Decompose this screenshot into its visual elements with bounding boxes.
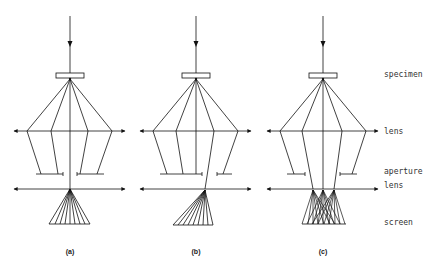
beam-arrow-icon (68, 41, 73, 47)
label-specimen: specimen (384, 70, 423, 79)
beam-arrow-icon (321, 41, 326, 47)
label-lens-objective: lens (384, 127, 403, 136)
caption-b: (b) (192, 248, 201, 255)
specimen-c (309, 73, 337, 78)
beam-arrow-icon (194, 41, 199, 47)
label-lens-projector: lens (384, 181, 403, 190)
specimen-a (56, 73, 84, 78)
caption-c: (c) (319, 248, 328, 255)
optics-diagram (0, 0, 435, 268)
caption-a: (a) (66, 248, 75, 255)
specimen-b (182, 73, 210, 78)
panel-c (267, 16, 378, 224)
panel-b (140, 16, 251, 225)
label-aperture: aperture (384, 167, 423, 176)
panel-a (14, 16, 125, 224)
label-screen: screen (384, 218, 413, 227)
